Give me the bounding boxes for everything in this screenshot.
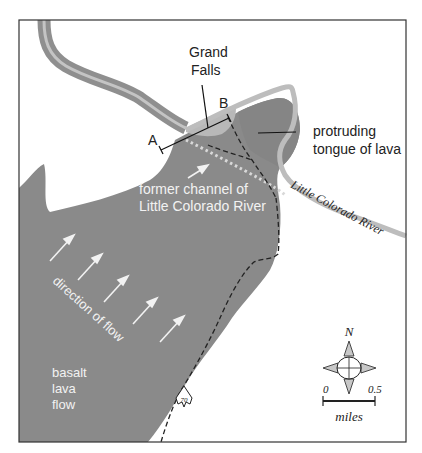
basalt-label-3: flow — [52, 397, 76, 412]
scale-unit-label: miles — [335, 409, 362, 424]
protruding-label-1: protruding — [313, 123, 376, 139]
protruding-label-2: tongue of lava — [313, 141, 401, 157]
grand-falls-label-1: Grand — [189, 44, 228, 60]
former-channel-label-1: former channel of — [139, 181, 248, 197]
basalt-label-1: basalt — [52, 365, 87, 380]
route-number: 70 — [181, 396, 189, 404]
scale-end-label: 0.5 — [368, 383, 382, 395]
basalt-label-2: lava — [52, 381, 77, 396]
scale-start-label: 0 — [323, 383, 329, 395]
point-b-label: B — [219, 95, 228, 111]
former-channel-label-2: Little Colorado River — [139, 198, 266, 214]
point-a-label: A — [148, 132, 158, 148]
north-label: N — [344, 324, 355, 339]
geologic-map: 70 Grand Falls A B protruding tongue of … — [0, 0, 422, 453]
grand-falls-label-2: Falls — [191, 62, 221, 78]
